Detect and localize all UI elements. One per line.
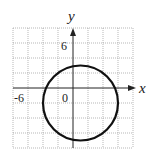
graph: x y 6 -6 0: [0, 0, 156, 161]
y-axis-label: y: [66, 8, 75, 24]
x-tick-label: -6: [14, 91, 24, 105]
x-axis-arrow-icon: [128, 85, 136, 91]
origin-label: 0: [62, 91, 68, 105]
axes: [13, 32, 130, 148]
circle-curve: [43, 66, 118, 141]
x-axis-label: x: [138, 80, 146, 96]
y-axis-arrow-icon: [70, 28, 76, 36]
y-tick-label: 6: [61, 39, 67, 53]
coordinate-plane: x y 6 -6 0: [0, 0, 156, 161]
